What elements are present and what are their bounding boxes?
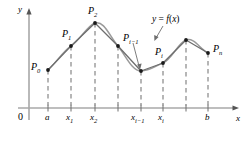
leader-curve-label <box>156 26 163 38</box>
point-Pi <box>161 61 165 65</box>
origin-label: 0 <box>18 112 23 122</box>
point-label-Pn: Pn <box>213 44 222 57</box>
point-Pn <box>206 51 210 55</box>
x-tick-label-x1: x1 <box>66 113 73 124</box>
x-tick-label-a: a <box>45 113 50 122</box>
arc-length-figure: y x 0 a x1 x2 xi−1 xi b P0 P1 P2 Pi−1 Pi… <box>0 0 248 144</box>
point-P0 <box>46 68 50 72</box>
y-axis-label: y <box>18 5 22 14</box>
point-Ppeak <box>184 38 188 42</box>
x-axis-label: x <box>236 114 240 123</box>
point-label-P0: P0 <box>31 62 40 75</box>
point-Pmid <box>116 44 120 48</box>
point-label-P2: P2 <box>88 6 97 19</box>
point-label-P1: P1 <box>62 29 71 42</box>
x-axis <box>18 105 239 110</box>
x-tick-label-xi: xi <box>158 113 164 124</box>
x-tick-label-b: b <box>205 113 210 122</box>
x-tick-label-x2: x2 <box>90 113 97 124</box>
curve-equation-label: y = f(x) <box>152 15 180 25</box>
point-label-Pi: Pi <box>155 47 163 60</box>
x-tick-label-xi-1: xi−1 <box>131 113 144 124</box>
point-P2 <box>93 21 97 25</box>
point-label-Pi-1: Pi−1 <box>123 33 139 46</box>
point-P1 <box>69 44 73 48</box>
point-Pi-1 <box>139 69 143 73</box>
